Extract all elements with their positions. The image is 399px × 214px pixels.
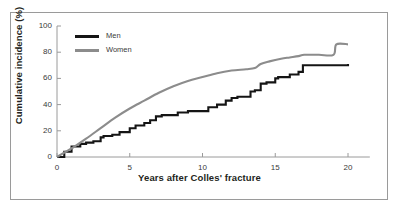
plot-area <box>0 0 399 214</box>
x-tick-label: 0 <box>44 163 70 172</box>
x-tick-label: 15 <box>262 163 288 172</box>
x-tick-label: 5 <box>117 163 143 172</box>
series-group <box>57 44 348 157</box>
y-tick-label: 60 <box>26 73 52 82</box>
figure-container: Cumulative incidence (%) Years after Col… <box>0 0 399 214</box>
x-tick-label: 20 <box>335 163 361 172</box>
y-tick-label: 20 <box>26 126 52 135</box>
legend-swatch-women <box>75 49 99 52</box>
legend-label-men: Men <box>106 31 121 40</box>
y-tick-label: 40 <box>26 100 52 109</box>
y-tick-label: 80 <box>26 47 52 56</box>
x-tick-label: 10 <box>190 163 216 172</box>
y-tick-label: 100 <box>26 21 52 30</box>
legend-label-women: Women <box>106 45 132 54</box>
legend-swatch-men <box>75 35 99 38</box>
y-tick-label: 0 <box>26 152 52 161</box>
